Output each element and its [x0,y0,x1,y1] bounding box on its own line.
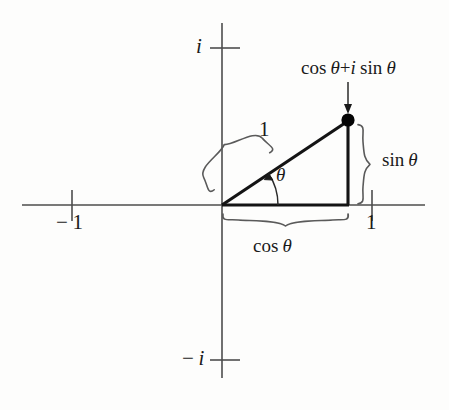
imag-pos-text: i [196,34,202,58]
point-label-arrow [344,82,352,114]
real-neg-text: 1 [72,210,83,234]
sin-leg-theta: θ [408,149,417,170]
hypotenuse-length-text: 1 [259,117,270,141]
complex-plane-figure: i −i −1 1 cosθ+isinθ sinθ cosθ 1 θ [0,0,449,410]
imaginary-axis-negative-label: −i [182,348,204,369]
cos-leg-function-name: cos [253,235,278,256]
point-marker [341,113,354,126]
cos-leg-theta: θ [283,235,292,256]
right-triangle-group [222,121,349,205]
sin-function-name: sin [360,57,382,78]
sin-argument-theta: θ [386,57,395,78]
imaginary-axis-positive-label: i [196,36,202,57]
cos-function-name: cos [301,57,326,78]
angle-theta-text: θ [276,164,285,185]
real-axis-positive-label: 1 [366,212,377,233]
point-expression-label: cosθ+isinθ [301,58,396,77]
triangle-hypotenuse [222,121,348,205]
real-pos-text: 1 [366,210,377,234]
cos-brace [223,214,348,226]
real-neg-sign: − [56,210,68,234]
cos-leg-label: cosθ [253,236,292,255]
point-label-arrowhead [344,104,352,114]
cos-argument-theta: θ [331,57,340,78]
imaginary-unit-i: i [351,57,356,78]
imag-neg-sign: − [182,346,194,370]
angle-theta-label: θ [276,165,285,184]
sin-leg-function-name: sin [382,149,404,170]
plus-operator: + [340,57,351,78]
real-axis-negative-label: −1 [56,212,83,233]
sin-brace [358,125,370,204]
imag-neg-text: i [198,346,204,370]
sin-leg-label: sinθ [382,150,418,169]
hypotenuse-length-label: 1 [259,119,270,140]
